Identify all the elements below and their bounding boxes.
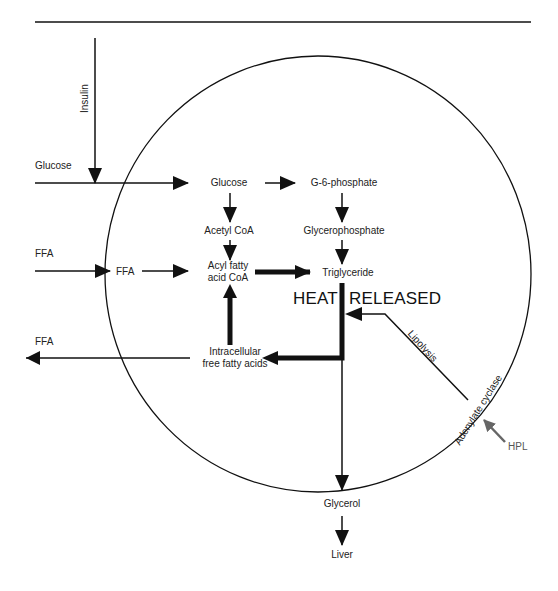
node-triglyceride: Triglyceride bbox=[322, 267, 373, 279]
heat-label: HEAT bbox=[293, 290, 338, 308]
lipolysis-arrowhead bbox=[345, 307, 362, 321]
node-glycerol: Glycerol bbox=[324, 498, 361, 510]
node-acetyl-coa: Acetyl CoA bbox=[204, 225, 253, 237]
hpl-arrow bbox=[484, 420, 505, 442]
node-glucose: Glucose bbox=[211, 177, 248, 189]
node-g6p: G-6-phosphate bbox=[311, 177, 378, 189]
node-intracellular-ffa-line1: Intracellular bbox=[209, 346, 261, 358]
lipolysis-line bbox=[360, 314, 468, 400]
label-hpl: HPL bbox=[508, 441, 527, 453]
released-label: RELEASED bbox=[349, 290, 441, 308]
label-insulin: Insulin bbox=[79, 84, 91, 113]
node-intracellular-ffa-line2: free fatty acids bbox=[202, 358, 267, 370]
node-acyl-fatty-acid-coa-line2: acid CoA bbox=[208, 272, 249, 284]
node-ffa: FFA bbox=[116, 266, 134, 278]
node-liver: Liver bbox=[331, 549, 353, 561]
label-ffa-in-outside: FFA bbox=[35, 248, 53, 260]
node-glycerophosphate: Glycerophosphate bbox=[303, 225, 384, 237]
label-glucose-outside: Glucose bbox=[35, 160, 72, 172]
ffa-exit-arrowhead bbox=[26, 351, 40, 365]
acyl-up-arrowhead bbox=[223, 284, 237, 298]
node-acyl-fatty-acid-coa-line1: Acyl fatty bbox=[208, 260, 249, 272]
label-ffa-out-outside: FFA bbox=[35, 336, 53, 348]
